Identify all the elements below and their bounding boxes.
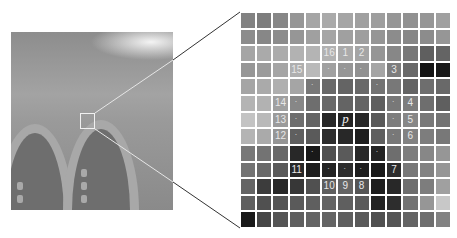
circle-index-label: 14 (272, 95, 288, 111)
pixel-cell (387, 146, 401, 161)
pixel-cell (371, 163, 385, 178)
pixel-cell (322, 13, 336, 28)
pixel-cell (241, 129, 255, 144)
pixel-cell (273, 196, 287, 211)
pixel-cell (257, 63, 271, 78)
pixel-cell (403, 30, 417, 45)
pixel-cell (420, 96, 434, 111)
pixel-cell (338, 96, 352, 111)
circle-index-label: 8 (354, 178, 370, 194)
tick-mark: ˊ (343, 167, 345, 174)
tick-mark: ˊ (327, 167, 329, 174)
pixel-cell (355, 79, 369, 94)
tick-mark: ˊ (311, 150, 313, 157)
pixel-cell (273, 163, 287, 178)
pixel-cell (436, 113, 450, 128)
pixel-cell (403, 63, 417, 78)
pixel-cell (355, 212, 369, 227)
pixel-cell (290, 46, 304, 61)
pixel-cell (306, 13, 320, 28)
pixel-cell (322, 212, 336, 227)
pixel-cell (403, 196, 417, 211)
tick-mark: ˊ (295, 117, 297, 124)
pixel-cell (420, 79, 434, 94)
pixel-cell (306, 163, 320, 178)
pixel-cell (403, 163, 417, 178)
circle-index-label: 4 (402, 95, 418, 111)
pixel-cell (436, 146, 450, 161)
pixel-cell (241, 163, 255, 178)
pixel-cell (290, 179, 304, 194)
circle-index-label: 11 (289, 162, 305, 178)
pixel-cell (306, 212, 320, 227)
pixel-cell (436, 179, 450, 194)
pixel-cell (355, 30, 369, 45)
pixel-cell (322, 146, 336, 161)
pixel-cell (436, 212, 450, 227)
tick-mark: ˊ (360, 67, 362, 74)
pixel-cell (306, 30, 320, 45)
pixel-cell (306, 63, 320, 78)
pixel-grid: ˊˊˊˊˊˊˊˊˊˊˊˊˊˊˊˊ12345678910111213141516p (240, 12, 451, 228)
pixel-cell (387, 79, 401, 94)
pixel-cell (241, 30, 255, 45)
pixel-cell (241, 179, 255, 194)
pixel-cell (241, 79, 255, 94)
pixel-cell (436, 196, 450, 211)
pixel-cell (257, 113, 271, 128)
pixel-cell (371, 129, 385, 144)
tick-mark: ˊ (295, 133, 297, 140)
pixel-cell (371, 13, 385, 28)
center-pixel-label: p (337, 111, 353, 127)
pixel-cell (290, 196, 304, 211)
pixel-cell (338, 13, 352, 28)
pixel-cell (371, 212, 385, 227)
pixel-cell (355, 146, 369, 161)
pixel-cell (290, 212, 304, 227)
pixel-cell (436, 13, 450, 28)
pixel-cell (273, 13, 287, 28)
pixel-cell (241, 13, 255, 28)
pixel-cell (338, 212, 352, 227)
pixel-cell (306, 179, 320, 194)
pixel-cell (241, 96, 255, 111)
tick-mark: ˊ (311, 83, 313, 90)
tick-mark: ˊ (295, 100, 297, 107)
tick-mark: ˊ (327, 67, 329, 74)
circle-index-label: 3 (386, 62, 402, 78)
pixel-cell (420, 212, 434, 227)
pixel-cell (371, 196, 385, 211)
pixel-cell (355, 113, 369, 128)
pixel-cell (257, 30, 271, 45)
circle-index-label: 10 (321, 178, 337, 194)
pixel-cell (436, 96, 450, 111)
pixel-cell (420, 196, 434, 211)
pixel-cell (403, 179, 417, 194)
circle-index-label: 5 (402, 112, 418, 128)
pixel-cell (306, 129, 320, 144)
pixel-cell (387, 179, 401, 194)
pixel-cell (436, 46, 450, 61)
circle-index-label: 1 (337, 45, 353, 61)
pixel-cell (338, 129, 352, 144)
pixel-cell (436, 163, 450, 178)
pixel-cell (371, 63, 385, 78)
pixel-cell (355, 129, 369, 144)
pixel-cell (241, 212, 255, 227)
pixel-cell (241, 196, 255, 211)
pixel-cell (338, 196, 352, 211)
pixel-cell (371, 96, 385, 111)
circle-index-label: 6 (402, 128, 418, 144)
pixel-cell (403, 46, 417, 61)
pixel-cell (436, 79, 450, 94)
circle-index-label: 15 (289, 62, 305, 78)
pixel-cell (436, 30, 450, 45)
tick-mark: ˊ (376, 83, 378, 90)
pixel-cell (322, 30, 336, 45)
pixel-cell (322, 96, 336, 111)
pixel-cell (420, 30, 434, 45)
pixel-cell (387, 46, 401, 61)
pixel-cell (257, 79, 271, 94)
pixel-cell (387, 212, 401, 227)
pixel-cell (257, 146, 271, 161)
